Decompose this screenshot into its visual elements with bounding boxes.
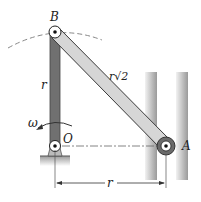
label-link-ba: r√2 [109, 70, 128, 83]
link-ob [50, 32, 60, 146]
label-o: O [63, 132, 73, 146]
label-link-ob: r [41, 78, 48, 92]
label-omega: ω [28, 116, 38, 130]
label-b: B [49, 10, 59, 24]
collar-a [157, 137, 175, 155]
label-dimension: r [107, 176, 114, 190]
pin-o [50, 141, 61, 152]
pin-b [49, 26, 61, 38]
mechanism-diagram: B O A r r√2 ω r [0, 0, 201, 202]
label-a: A [181, 139, 191, 153]
